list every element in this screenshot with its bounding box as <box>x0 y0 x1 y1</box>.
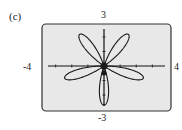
calculator-screen <box>0 0 182 130</box>
inner-cluster <box>102 71 107 76</box>
origin-cluster <box>101 63 108 70</box>
